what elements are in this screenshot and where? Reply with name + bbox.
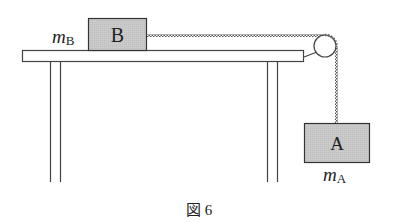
table-legs: [51, 62, 278, 182]
rope-vertical: [335, 46, 338, 123]
block-a: A: [305, 124, 370, 163]
pulley: [314, 35, 336, 57]
figure-caption: 図 6: [186, 202, 213, 218]
rope-horizontal: [146, 34, 326, 37]
mass-b-label: mB: [52, 26, 75, 48]
block-b: B: [89, 19, 147, 51]
block-a-label: A: [330, 133, 344, 154]
mass-a-label: mA: [323, 164, 347, 186]
pulley-bracket: [304, 52, 317, 57]
block-b-label: B: [111, 24, 124, 46]
physics-diagram: B mB A mA 図 6: [0, 0, 396, 223]
table-top: [23, 51, 304, 62]
